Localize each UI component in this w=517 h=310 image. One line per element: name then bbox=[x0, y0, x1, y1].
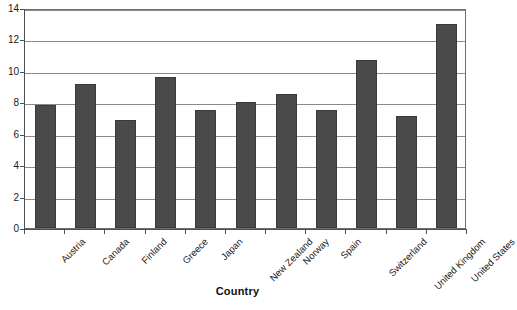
x-axis-tick bbox=[104, 230, 105, 234]
y-axis-tick bbox=[20, 72, 24, 73]
y-axis-tick bbox=[20, 135, 24, 136]
bar bbox=[115, 120, 136, 228]
y-axis-tick-label: 0 bbox=[1, 224, 19, 234]
x-axis-title: Country bbox=[0, 285, 475, 297]
y-axis-tick-label: 4 bbox=[1, 161, 19, 171]
y-axis-tick-label: 10 bbox=[1, 67, 19, 77]
y-axis-tick bbox=[20, 103, 24, 104]
x-axis-tick bbox=[345, 230, 346, 234]
y-axis-tick bbox=[20, 166, 24, 167]
x-axis-tick-label: Finland bbox=[140, 236, 170, 266]
bar bbox=[276, 94, 297, 228]
x-axis-tick bbox=[64, 230, 65, 234]
y-axis-tick-label: 12 bbox=[1, 35, 19, 45]
y-axis-labels: 02468101214 bbox=[0, 0, 19, 310]
x-axis-tick bbox=[386, 230, 387, 234]
y-axis-line bbox=[24, 9, 25, 230]
x-axis-tick-label: Japan bbox=[218, 236, 244, 262]
bars-layer bbox=[25, 10, 465, 228]
x-axis-line bbox=[24, 229, 467, 230]
y-axis-tick bbox=[20, 9, 24, 10]
y-axis-tick bbox=[20, 229, 24, 230]
x-axis-tick bbox=[466, 230, 467, 234]
bar bbox=[396, 116, 417, 228]
bar bbox=[35, 105, 56, 228]
x-axis-tick bbox=[145, 230, 146, 234]
x-axis-tick-label: Spain bbox=[338, 236, 363, 261]
x-axis-tick bbox=[265, 230, 266, 234]
bar bbox=[316, 110, 337, 228]
y-axis-tick-label: 6 bbox=[1, 130, 19, 140]
bar bbox=[195, 110, 216, 228]
plot-area bbox=[24, 9, 466, 229]
x-axis-tick-label: United Kingdom bbox=[432, 236, 488, 292]
y-axis-tick-label: 14 bbox=[1, 4, 19, 14]
x-axis-tick-label: Austria bbox=[59, 236, 88, 265]
bar bbox=[75, 84, 96, 228]
bar bbox=[236, 102, 257, 228]
x-axis-tick-label: Greece bbox=[180, 236, 210, 266]
x-axis-tick bbox=[24, 230, 25, 234]
y-axis-tick-label: 8 bbox=[1, 98, 19, 108]
x-axis-tick bbox=[305, 230, 306, 234]
bar bbox=[155, 77, 176, 228]
bar bbox=[436, 24, 457, 228]
y-axis-tick bbox=[20, 40, 24, 41]
y-axis-tick bbox=[20, 198, 24, 199]
bar bbox=[356, 60, 377, 228]
x-axis-tick-label: Canada bbox=[100, 236, 131, 267]
y-axis-tick-label: 2 bbox=[1, 193, 19, 203]
x-axis-tick bbox=[225, 230, 226, 234]
x-axis-tick bbox=[426, 230, 427, 234]
x-axis-tick-label: Switzerland bbox=[386, 236, 429, 279]
x-axis-tick bbox=[185, 230, 186, 234]
